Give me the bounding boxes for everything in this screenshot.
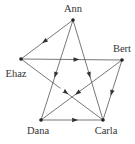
arrowhead-icon — [109, 89, 115, 96]
edge-bert-to-dana — [41, 60, 122, 120]
node-ann — [71, 18, 75, 22]
arrowhead-icon — [87, 71, 93, 78]
arrowhead-icon — [41, 38, 48, 45]
edges-layer — [21, 20, 122, 122]
node-label-carla: Carla — [95, 125, 118, 136]
edge-ann-to-dana — [41, 20, 73, 120]
node-ehaz — [19, 57, 23, 61]
node-label-dana: Dana — [27, 125, 49, 136]
labels-layer: AnnBertCarlaDanaEhaz — [6, 3, 132, 136]
node-carla — [101, 118, 105, 122]
node-dana — [39, 118, 43, 122]
edge-ehaz-to-bert — [21, 59, 122, 60]
edge-ann-to-carla — [73, 20, 103, 120]
crossing-gap — [73, 88, 77, 92]
crossing-gap — [60, 88, 64, 92]
node-label-bert: Bert — [113, 43, 131, 54]
arrowhead-icon — [52, 71, 58, 78]
edge-ann-to-ehaz — [21, 20, 73, 59]
node-label-ann: Ann — [64, 3, 83, 14]
node-bert — [120, 58, 124, 62]
arrowhead-icon — [72, 118, 78, 122]
node-label-ehaz: Ehaz — [6, 68, 27, 79]
crossing-gaps-layer — [60, 88, 77, 92]
directed-graph: AnnBertCarlaDanaEhaz — [0, 0, 135, 144]
arrowhead-icon — [74, 57, 80, 61]
edge-bert-to-carla — [103, 60, 122, 120]
